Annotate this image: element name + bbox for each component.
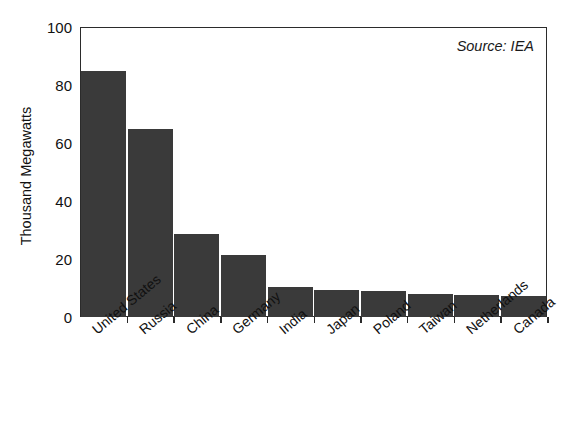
x-tick-mark [407,317,409,323]
x-tick-mark [360,317,362,323]
x-tick-mark [127,317,129,323]
bars-layer [0,0,574,431]
x-tick-mark [314,317,316,323]
x-tick-mark [267,317,269,323]
x-tick-mark [500,317,502,323]
bar [81,71,126,318]
x-tick-mark [547,317,549,323]
bar-chart-figure: Thousand Megawatts 020406080100 Source: … [0,0,574,431]
x-tick-mark [220,317,222,323]
x-tick-mark [454,317,456,323]
x-tick-mark [173,317,175,323]
